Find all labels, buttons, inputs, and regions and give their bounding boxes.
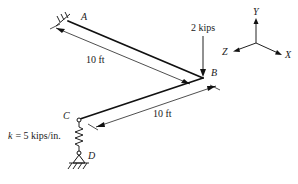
structure-diagram: 10 ft 10 ft 2 kips A B C D k= 5 kips/in. bbox=[0, 0, 298, 184]
pin-c bbox=[77, 118, 81, 122]
point-b-label: B bbox=[211, 67, 217, 78]
spring-k-symbol: k bbox=[8, 130, 13, 141]
fixed-support-a bbox=[56, 12, 70, 26]
point-a-label: A bbox=[80, 11, 88, 22]
dimension-ab bbox=[50, 24, 190, 84]
point-d-label: D bbox=[87, 150, 96, 161]
load-label: 2 kips bbox=[191, 22, 215, 33]
axis-x-label: X bbox=[284, 49, 292, 60]
member-bc bbox=[80, 78, 203, 119]
axis-z-label: Z bbox=[222, 46, 228, 57]
dimension-bc-label: 10 ft bbox=[153, 108, 172, 119]
coordinate-axes bbox=[233, 18, 282, 55]
point-c-label: C bbox=[63, 110, 70, 121]
member-ab bbox=[68, 21, 203, 78]
spring bbox=[75, 122, 83, 151]
pin-support-d bbox=[68, 151, 89, 169]
axis-y-label: Y bbox=[253, 6, 260, 17]
load-arrow bbox=[200, 36, 206, 77]
dimension-ab-label: 10 ft bbox=[86, 54, 105, 65]
spring-label: k= 5 kips/in. bbox=[8, 130, 61, 141]
spring-value: = 5 kips/in. bbox=[15, 130, 60, 141]
